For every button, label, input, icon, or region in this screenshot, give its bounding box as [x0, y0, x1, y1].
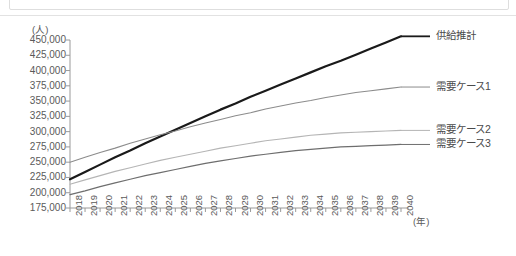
x-axis-tick-label: 2034: [315, 195, 325, 216]
x-axis-tick-label: 2031: [270, 195, 280, 216]
x-axis-tick-label: 2025: [179, 195, 189, 216]
x-axis-tick-label: 2023: [149, 195, 159, 216]
x-axis-tick-label: 2032: [285, 195, 295, 216]
x-axis-tick-label: 2037: [360, 195, 370, 216]
x-axis-tick-label: 2035: [330, 195, 340, 216]
legend-item-2: 需要ケース1: [436, 81, 491, 92]
x-axis-tick-label: 2022: [134, 195, 144, 216]
x-axis-tick-label: 2027: [209, 195, 219, 216]
x-axis-unit-label: (年): [413, 214, 429, 228]
x-axis-tick-label: 2038: [375, 195, 385, 216]
x-axis-tick-label: 2021: [119, 195, 129, 216]
x-axis-tick-label: 2039: [390, 195, 400, 216]
series-line-4: [70, 144, 401, 194]
x-axis-tick-label: 2030: [255, 195, 265, 216]
x-axis-tick-label: 2028: [224, 195, 234, 216]
legend-item-3: 需要ケース2: [436, 124, 491, 135]
series-line-1: [70, 36, 401, 179]
x-axis-tick-label: 2040: [405, 195, 415, 216]
x-axis-tick-label: 2020: [104, 195, 114, 216]
x-axis-tick-label: 2029: [240, 195, 250, 216]
series-line-2: [70, 87, 401, 162]
legend-item-1: 供給推計: [436, 30, 476, 41]
x-axis-tick-label: 2019: [89, 195, 99, 216]
x-axis-tick-label: 2036: [345, 195, 355, 216]
x-axis-tick-label: 2033: [300, 195, 310, 216]
x-axis-tick-label: 2018: [74, 195, 84, 216]
chart-page: (人) 450,000425,000400,000375,000350,0003…: [0, 0, 516, 256]
line-chart: (人) 450,000425,000400,000375,000350,0003…: [0, 0, 516, 256]
series-line-3: [70, 130, 401, 184]
x-axis-tick-label: 2024: [164, 195, 174, 216]
x-axis-tick-label: 2026: [194, 195, 204, 216]
legend-item-4: 需要ケース3: [436, 138, 491, 149]
